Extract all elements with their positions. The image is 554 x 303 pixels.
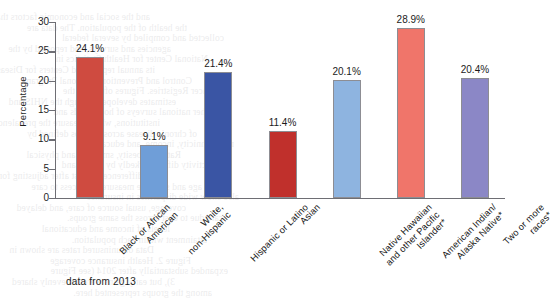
bar: [461, 78, 489, 198]
x-category-label: Black or African American: [118, 202, 180, 264]
y-tick-label: 20: [29, 76, 49, 86]
y-tick-label: 0: [29, 193, 49, 203]
y-tick-label: 5: [29, 164, 49, 174]
bar: [269, 131, 297, 198]
x-category-label: Two or more races*: [499, 202, 554, 257]
bar-value-label: 28.9%: [385, 14, 437, 25]
y-tick-mark: [49, 198, 55, 199]
bar-value-label: 24.1%: [64, 43, 116, 54]
bar: [140, 145, 168, 198]
y-tick-label: 30: [29, 17, 49, 27]
y-tick-mark: [49, 110, 55, 111]
bar: [333, 80, 361, 198]
bar-value-label: 11.4%: [257, 117, 309, 128]
y-axis-tick-labels: 302520151050: [25, 0, 49, 303]
y-tick-mark: [49, 22, 55, 23]
bar-value-label: 9.1%: [128, 131, 180, 142]
plot-area: 24.1%9.1%21.4%11.4%20.1%28.9%20.4%: [56, 22, 505, 198]
bar: [397, 28, 425, 198]
x-category-label: American Indian/ Alaska Native*: [440, 202, 506, 268]
x-category-label: White, non-Hispanic: [179, 202, 234, 257]
chart-caption: data from 2013: [66, 276, 136, 287]
y-tick-label: 10: [29, 134, 49, 144]
x-category-label: Hispanic or Latino: [249, 202, 311, 264]
bar-value-label: 21.4%: [192, 58, 244, 69]
y-tick-mark: [49, 169, 55, 170]
y-tick-mark: [49, 81, 55, 82]
x-axis-line: [55, 198, 505, 199]
y-tick-label: 25: [29, 46, 49, 56]
y-tick-mark: [49, 51, 55, 52]
x-category-label: Native Hawaiian and other Pacific Island…: [376, 202, 449, 275]
bar-value-label: 20.4%: [449, 64, 501, 75]
bar-value-label: 20.1%: [321, 66, 373, 77]
bar: [204, 72, 232, 198]
y-tick-label: 15: [29, 105, 49, 115]
bar: [76, 57, 104, 198]
y-tick-mark: [49, 139, 55, 140]
